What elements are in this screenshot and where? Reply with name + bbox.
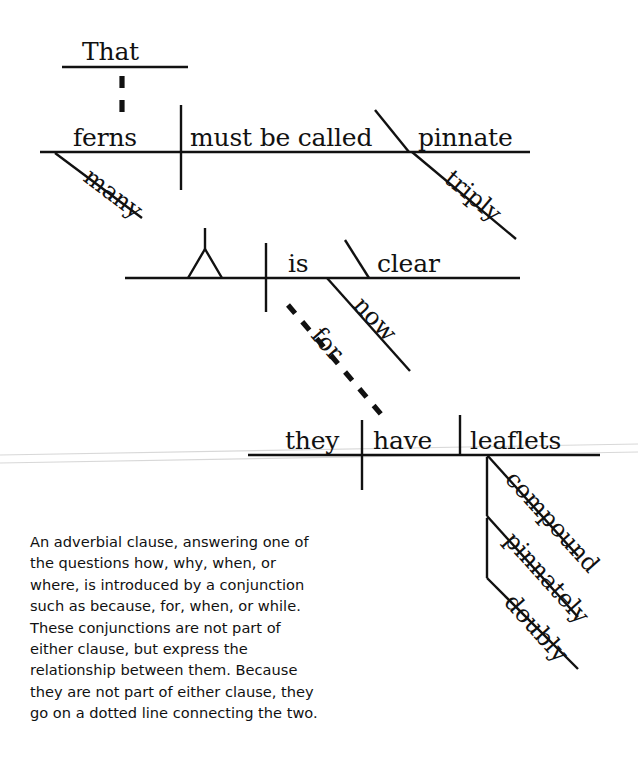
word-many: many — [78, 162, 148, 224]
word-triply: triply — [439, 164, 507, 228]
word-for: for — [305, 322, 349, 367]
word-leaflets: leaflets — [470, 426, 561, 455]
word-pinnate: pinnate — [418, 123, 513, 152]
word-they: they — [285, 426, 340, 455]
caption-paragraph: An adverbial clause, answering one of th… — [30, 531, 322, 724]
word-ferns: ferns — [73, 123, 137, 152]
word-have: have — [373, 426, 432, 455]
sentence-diagram-canvas: That ferns must be called pinnate many t… — [0, 0, 638, 762]
middle-verb-complement-divider — [345, 240, 369, 278]
caption-block: An adverbial clause, answering one of th… — [30, 531, 322, 724]
word-is: is — [288, 249, 308, 278]
top-verb-complement-divider — [375, 110, 409, 152]
word-clear: clear — [377, 249, 440, 278]
subject-triangle — [188, 249, 222, 278]
word-now: now — [348, 291, 403, 347]
word-that: That — [82, 37, 139, 66]
word-must-be-called: must be called — [190, 123, 372, 152]
